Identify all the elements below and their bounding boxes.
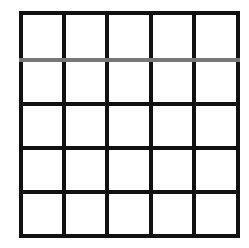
grid-cell-r2-c0 xyxy=(21,104,64,148)
grid-cell-r0-c1 xyxy=(64,13,107,60)
grid-cell-r4-c4 xyxy=(194,192,238,236)
grid-cell-r4-c1 xyxy=(64,192,107,236)
grid-cell-r0-c0 xyxy=(21,13,64,60)
grid-cell-r1-c1 xyxy=(64,60,107,104)
grid-diagram xyxy=(0,0,249,248)
grid-cell-r3-c1 xyxy=(64,148,107,192)
grid-cell-r3-c4 xyxy=(194,148,238,192)
grid-cell-r3-c2 xyxy=(107,148,151,192)
grid-cell-r1-c4 xyxy=(194,60,238,104)
grid-cell-r2-c1 xyxy=(64,104,107,148)
grid-cell-r1-c0 xyxy=(21,60,64,104)
grid-cell-r4-c0 xyxy=(21,192,64,236)
grid-cell-r0-c3 xyxy=(151,13,194,60)
grid-cell-r4-c2 xyxy=(107,192,151,236)
grid-cell-r4-c3 xyxy=(151,192,194,236)
grid-cell-r1-c3 xyxy=(151,60,194,104)
grid-cell-r3-c0 xyxy=(21,148,64,192)
grid-cell-r3-c3 xyxy=(151,148,194,192)
grid-cell-r1-c2 xyxy=(107,60,151,104)
grid-cell-r2-c4 xyxy=(194,104,238,148)
grid-cell-r0-c2 xyxy=(107,13,151,60)
grid-cell-r2-c3 xyxy=(151,104,194,148)
grid-cell-r0-c4 xyxy=(194,13,238,60)
grid-cell-r2-c2 xyxy=(107,104,151,148)
